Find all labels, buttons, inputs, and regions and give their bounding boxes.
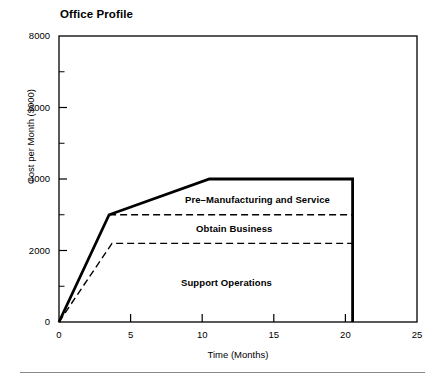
y-major-ticks [59,108,67,251]
band-label-support-operations: Support Operations [181,277,272,288]
plot-area [0,0,435,384]
band-label-obtain-business: Obtain Business [196,223,272,234]
x-major-ticks [131,314,346,322]
footer-divider [20,372,425,373]
chart-figure: Office Profile Cost per Month ($000) Tim… [0,0,435,384]
band-label-pre-manufacturing: Pre–Manufacturing and Service [185,194,330,205]
